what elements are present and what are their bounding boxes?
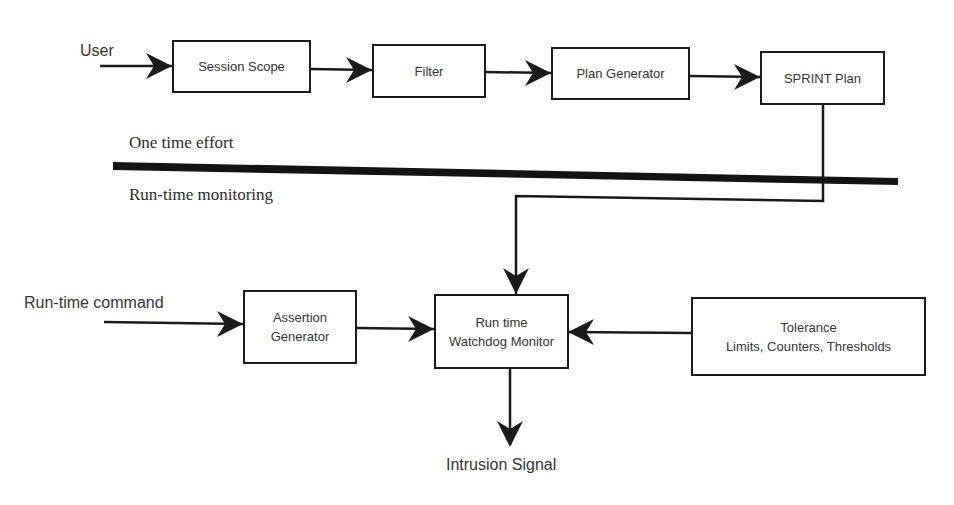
phase-runtime-label: Run-time monitoring [129,185,273,205]
arrow-sprint-to-watchdog [516,104,823,294]
arrow-command-to-assertion [104,322,243,324]
node-tolerance-line2: Limits, Counters, Thresholds [726,337,891,356]
node-filter-label: Filter [415,62,444,81]
input-runtime-command-label: Run-time command [24,294,164,312]
node-assertion-generator-line1: Assertion [273,308,327,327]
node-tolerance-line1: Tolerance [780,318,836,337]
diagram-canvas: User Run-time command One time effort Ru… [0,0,954,505]
node-sprint-plan-label: SPRINT Plan [784,69,861,88]
node-session-scope-label: Session Scope [198,57,285,76]
node-plan-generator-label: Plan Generator [576,64,664,83]
output-intrusion-signal-label: Intrusion Signal [446,456,556,474]
input-user-label: User [80,42,114,60]
node-watchdog-monitor: Run time Watchdog Monitor [434,294,569,369]
phase-one-time-label: One time effort [129,133,233,153]
node-watchdog-line1: Run time [475,313,527,332]
node-watchdog-line2: Watchdog Monitor [449,332,554,351]
phase-divider [113,162,898,185]
node-tolerance: Tolerance Limits, Counters, Thresholds [691,297,926,376]
node-assertion-generator-line2: Generator [271,327,330,346]
node-plan-generator: Plan Generator [551,47,690,100]
node-sprint-plan: SPRINT Plan [760,51,885,105]
node-session-scope: Session Scope [172,40,311,93]
node-assertion-generator: Assertion Generator [243,290,357,364]
node-filter: Filter [372,44,486,98]
